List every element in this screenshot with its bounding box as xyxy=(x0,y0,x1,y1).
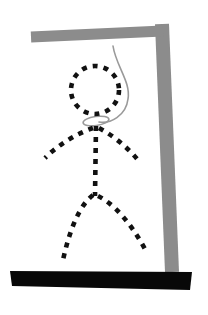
hangman-illustration xyxy=(0,0,208,315)
gallows-beam xyxy=(31,31,163,37)
gallows-post xyxy=(162,24,172,272)
hangman-scene: Hangman Drawing xyxy=(0,0,208,315)
